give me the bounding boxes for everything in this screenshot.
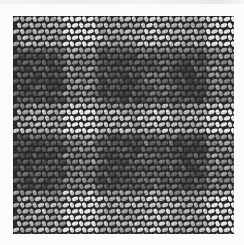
image-background (0, 0, 244, 245)
top-edge-strip (0, 0, 244, 4)
fabric-texture-image (13, 16, 234, 234)
